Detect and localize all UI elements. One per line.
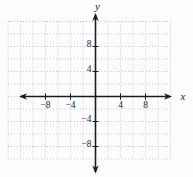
x-tick-label: 4	[118, 100, 123, 110]
y-tick-label: 4	[87, 64, 92, 74]
coordinate-plane: −8−44884−4−8 x y	[0, 0, 193, 177]
x-tick-label: −4	[65, 100, 75, 110]
y-axis	[92, 13, 98, 174]
x-tick-label: 8	[143, 100, 148, 110]
y-tick-label: 8	[87, 39, 92, 49]
y-axis-label: y	[94, 0, 100, 12]
y-tick-label: −4	[81, 114, 91, 124]
coordinate-plane-figure: −8−44884−4−8 x y	[0, 0, 193, 177]
x-axis-label: x	[180, 90, 186, 102]
x-tick-label: −8	[40, 100, 50, 110]
y-tick-label: −8	[81, 139, 91, 149]
tick-labels: −8−44884−4−8	[40, 39, 148, 149]
